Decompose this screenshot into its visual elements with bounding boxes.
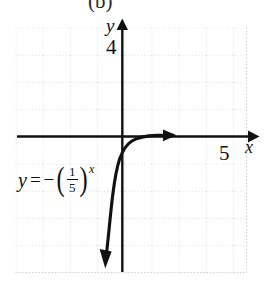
fraction-denominator: 5 [67,181,78,194]
equation-minus-sign: − [44,170,55,189]
equation-annotation: y = − ( 1 5 ) x [18,165,94,195]
equation-equals-sign: = [30,170,41,189]
part-label: (b) [88,0,113,12]
grid-background [16,28,247,273]
equation-exponent: x [89,163,94,175]
equation-lhs: y [18,170,27,190]
x-axis-label: x [245,138,253,156]
x-axis-tick-label-5: 5 [219,143,230,164]
y-axis-label: y [106,16,114,35]
right-paren: ) [79,166,87,193]
y-axis-tick-label-4: 4 [106,37,117,58]
left-paren: ( [57,166,65,193]
fraction-numerator: 1 [67,165,78,178]
graph-canvas [0,0,276,281]
exponential-graph-figure: (b) y x 4 5 y = − ( 1 5 ) x [0,0,276,281]
y-axis-arrowhead [117,19,128,31]
fraction-one-fifth: 1 5 [67,165,78,195]
